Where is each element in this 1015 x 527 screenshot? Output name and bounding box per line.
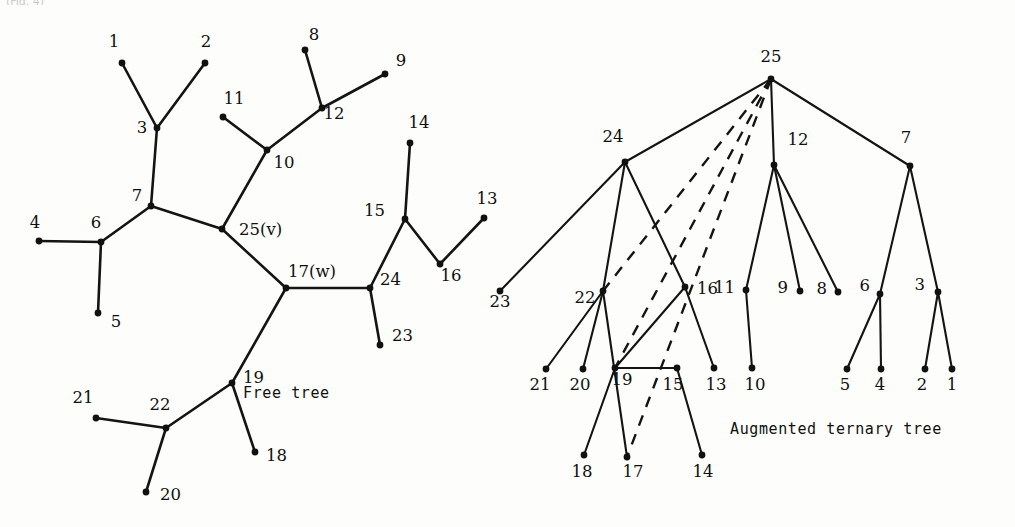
tree-node-label: 25 [761,47,782,66]
tree-node-label: 13 [706,375,727,394]
tree-figure-svg: 12376451110128925(v)17(w)242315141613191… [0,0,1015,527]
augmented-ternary-tree-caption: Augmented ternary tree [730,420,942,438]
tree-node-label: 10 [745,375,766,394]
tree-node-label: 12 [324,104,345,123]
tree-node-label: 1 [109,32,120,51]
tree-node-label: 18 [572,462,593,481]
tree-node [743,287,750,294]
tree-edge [96,418,166,428]
tree-edge [746,165,774,290]
tree-edge [847,294,880,369]
tree-node-label: 20 [160,485,181,504]
tree-node [382,71,389,78]
tree-node [377,342,384,349]
tree-node-label: 3 [915,275,926,294]
tree-edge [746,290,752,368]
tree-edge [267,108,322,150]
tree-edge [880,294,881,369]
tree-node [543,366,550,373]
tree-edge [322,74,385,108]
tree-node-label: 22 [575,288,596,307]
tree-node-label: 14 [693,462,714,481]
tree-node-label: 7 [132,186,143,205]
tree-edge [774,165,800,291]
tree-edge [440,218,484,264]
tree-edge [880,166,910,294]
tree-node [481,215,488,222]
tree-node-label: 21 [73,388,94,407]
tree-node-label: 3 [137,118,148,137]
tree-edge [98,242,101,313]
tree-node [154,125,161,132]
tree-edge [625,162,685,287]
augmented-ternary-tree-panel: 2524127232216119863212019151310542118171… [490,47,958,481]
tree-node [36,238,43,245]
tree-node-label: 8 [309,25,320,44]
tree-node [878,366,885,373]
tree-node-label: 22 [150,395,171,414]
tree-edge [771,79,774,165]
tree-node-label: 21 [530,375,551,394]
tree-edge [223,117,267,150]
tree-node [768,76,775,83]
tree-edge [39,241,101,242]
tree-edge [157,63,205,128]
tree-edge [405,143,410,219]
tree-node-label: 11 [224,89,245,108]
tree-node [877,291,884,298]
tree-node [407,140,414,147]
tree-node [367,285,374,292]
tree-node [624,454,631,461]
tree-node [143,489,150,496]
tree-node-label: 17(w) [288,262,336,281]
free-tree-caption: Free tree [243,384,330,402]
tree-node-label: 15 [663,375,684,394]
ternary-tree-solid-edges [500,79,952,457]
tree-node-label: 5 [111,312,122,331]
tree-node-label: 15 [364,201,385,220]
tree-node-label: 6 [91,213,102,232]
tree-node [674,365,681,372]
tree-node [682,284,689,291]
tree-node [119,60,126,67]
tree-node [581,452,588,459]
tree-node-label: 9 [778,278,789,297]
tree-node [949,366,956,373]
tree-node-label: 19 [612,370,633,389]
tree-edge [146,428,166,492]
tree-node-label: 2 [201,32,212,51]
tree-node-label: 18 [266,446,287,465]
tree-node [219,226,226,233]
tree-edge [305,50,322,108]
tree-node [148,203,155,210]
tree-node [264,147,271,154]
tree-node-label: 10 [274,153,295,172]
tree-node-label: 5 [840,375,851,394]
tree-edge [370,288,380,345]
tree-node-label: 23 [490,292,511,311]
tree-node [622,159,629,166]
tree-node-label: 4 [875,375,886,394]
tree-node-label: 2 [917,375,928,394]
tree-node-label: 12 [788,130,809,149]
tree-node [771,162,778,169]
tree-node-label: 11 [714,278,735,297]
tree-node [580,366,587,373]
tree-node-label: 17 [623,462,644,481]
tree-node-label: 9 [396,51,407,70]
tree-dashed-edge [627,79,771,457]
tree-edge [101,206,151,242]
tree-node [163,425,170,432]
tree-node-label: 1 [947,375,958,394]
tree-node [749,365,756,372]
tree-node [835,289,842,296]
tree-edge [151,206,222,229]
tree-node [402,216,409,223]
tree-edge [405,219,440,264]
free-tree-panel: 12376451110128925(v)17(w)242315141613191… [30,25,498,504]
tree-node [600,288,607,295]
tree-node-label: 24 [603,127,624,146]
tree-node [699,452,706,459]
tree-edge [910,166,938,292]
tree-node [95,310,102,317]
